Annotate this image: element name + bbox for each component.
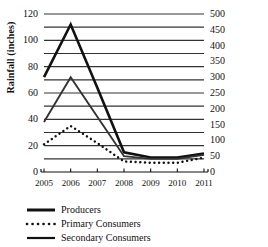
- x-tick-label: 2006: [62, 178, 80, 188]
- legend-item[interactable]: Primary Consumers: [27, 217, 257, 231]
- legend-label: Producers: [61, 204, 101, 216]
- chart-container: Rainfall (inches) Biomass 02040608010012…: [0, 0, 267, 247]
- x-tick-label: 2010: [168, 178, 186, 188]
- chart-legend: ProducersPrimary ConsumersSecondary Cons…: [27, 203, 257, 245]
- legend-item[interactable]: Secondary Consumers: [27, 231, 257, 245]
- x-axis-ticks: 2005200620072008200920102011: [44, 178, 204, 192]
- x-tick-label: 2005: [35, 178, 53, 188]
- axis-lines: [34, 14, 224, 180]
- x-tick-label: 2009: [142, 178, 160, 188]
- x-tick-label: 2007: [88, 178, 106, 188]
- legend-swatch-icon: [27, 204, 55, 216]
- x-tick-label: 2008: [115, 178, 133, 188]
- legend-swatch-icon: [27, 232, 55, 244]
- x-tick-label: 2011: [195, 178, 213, 188]
- chart-figure: Rainfall (inches) Biomass 02040608010012…: [0, 0, 267, 200]
- legend-item[interactable]: Producers: [27, 203, 257, 217]
- legend-label: Secondary Consumers: [61, 232, 151, 244]
- legend-label: Primary Consumers: [61, 218, 141, 230]
- legend-swatch-icon: [27, 218, 55, 230]
- y-axis-title-right: Biomass: [267, 49, 268, 119]
